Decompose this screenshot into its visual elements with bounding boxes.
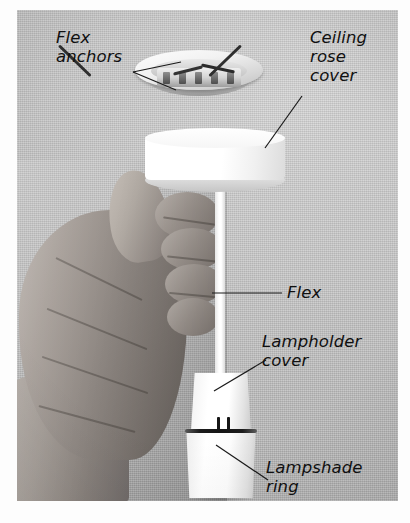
label-flex: Flex xyxy=(287,283,321,302)
figure-page: Flex anchors Ceiling rose cover Flex Lam… xyxy=(0,0,410,523)
annotation-layer: Flex anchors Ceiling rose cover Flex Lam… xyxy=(0,0,410,523)
label-lampholder-cover: Lampholder cover xyxy=(262,332,361,370)
label-flex-anchors: Flex anchors xyxy=(56,28,122,66)
label-ceiling-rose-cover: Ceiling rose cover xyxy=(310,28,367,85)
label-lampshade-ring: Lampshade ring xyxy=(266,458,363,496)
